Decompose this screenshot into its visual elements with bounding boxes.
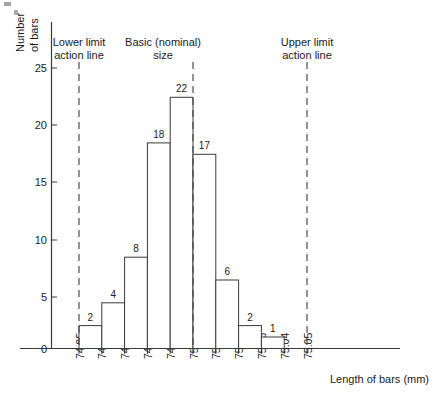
chart-canvas: 25 20 15 10 5 0 Number of bars xyxy=(0,0,440,399)
annotation-basic-size-line1: Basic (nominal) xyxy=(125,36,201,48)
y-tick-label: 10 xyxy=(35,234,47,246)
bar xyxy=(102,303,125,349)
x-axis-title: Length of bars (mm) xyxy=(330,373,429,385)
bar xyxy=(239,326,262,349)
y-tick-label: 5 xyxy=(41,291,47,303)
annotation-basic-size: Basic (nominal) size xyxy=(125,36,201,61)
bar-value-label: 17 xyxy=(199,140,211,151)
bar xyxy=(147,143,170,349)
x-tick-label: 75.05 xyxy=(302,333,314,359)
annotation-upper-limit: Upper limit action line xyxy=(281,36,334,61)
annotation-lower-limit-line1: Lower limit xyxy=(53,36,106,48)
y-tick-label: 0 xyxy=(41,343,47,355)
bar-series xyxy=(79,97,284,348)
bar-value-label: 2 xyxy=(247,312,253,323)
y-tick-labels: 25 20 15 10 5 0 xyxy=(35,62,47,355)
y-tick-label: 20 xyxy=(35,119,47,131)
y-tick-label: 25 xyxy=(35,62,47,74)
histogram-chart: 25 20 15 10 5 0 Number of bars xyxy=(0,0,440,399)
annotation-upper-limit-line2: action line xyxy=(282,49,332,61)
bar-value-label: 6 xyxy=(224,266,230,277)
y-axis-title: Number of bars xyxy=(14,13,40,52)
bar-value-label: 8 xyxy=(133,243,139,254)
annotation-upper-limit-line1: Upper limit xyxy=(281,36,334,48)
bar-value-label: 1 xyxy=(270,323,276,334)
annotation-basic-size-line2: size xyxy=(153,49,173,61)
bar xyxy=(193,154,216,348)
bar-value-label: 2 xyxy=(88,312,94,323)
bar xyxy=(261,337,284,349)
bar xyxy=(125,257,148,348)
annotation-lower-limit: Lower limit action line xyxy=(53,36,106,61)
bar xyxy=(170,97,193,348)
bar-value-label: 22 xyxy=(176,83,188,94)
annotation-lower-limit-line2: action line xyxy=(54,49,104,61)
bar xyxy=(79,326,102,349)
y-axis-title-line1: Number xyxy=(14,13,26,52)
bar-value-label: 4 xyxy=(110,289,116,300)
y-tick-marks xyxy=(52,68,58,297)
bar xyxy=(216,280,239,349)
y-axis-title-line2: of bars xyxy=(28,18,40,52)
bar-value-label: 18 xyxy=(153,129,165,140)
y-tick-label: 15 xyxy=(35,176,47,188)
